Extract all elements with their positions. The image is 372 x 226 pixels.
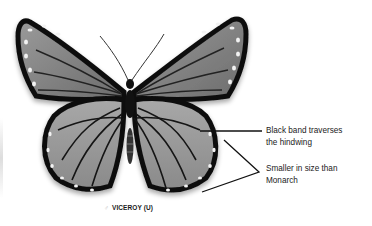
annotation-text: Monarch — [266, 175, 366, 187]
annotation-text: Smaller in size than — [266, 163, 366, 175]
figure-caption: ♂VICEROY (U) — [104, 204, 153, 211]
male-symbol-icon: ♂ — [104, 204, 109, 211]
annotation-black-band: Black band traverses the hindwing — [266, 125, 366, 148]
annotation-text: Black band traverses — [266, 125, 366, 137]
caption-text: VICEROY (U) — [112, 204, 153, 211]
annotation-text: the hindwing — [266, 137, 366, 149]
annotation-size: Smaller in size than Monarch — [266, 163, 366, 186]
butterfly-illustration — [0, 0, 372, 226]
left-forewing — [18, 21, 124, 99]
right-forewing — [134, 19, 246, 99]
